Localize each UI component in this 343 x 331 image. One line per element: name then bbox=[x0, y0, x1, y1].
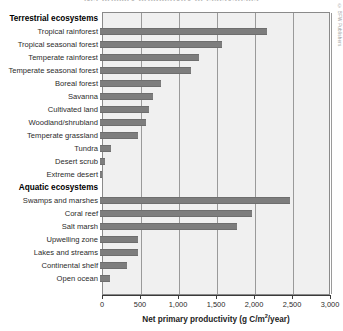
bar-row: Temperate seasonal forest bbox=[0, 64, 331, 77]
bar bbox=[100, 145, 111, 152]
bar-row-label: Coral reef bbox=[0, 207, 100, 220]
x-axis-title: Net primary productivity (g C/m2/year) bbox=[102, 313, 330, 324]
bar-row-label: Salt marsh bbox=[0, 220, 100, 233]
bar-track bbox=[100, 272, 331, 285]
bar bbox=[100, 236, 138, 243]
bar-track bbox=[100, 259, 331, 272]
bar-track bbox=[100, 155, 331, 168]
bar bbox=[100, 54, 199, 61]
bar-track bbox=[100, 233, 331, 246]
bar-row-label: Temperate rainforest bbox=[0, 51, 100, 64]
bar-row-label: Extreme desert bbox=[0, 168, 100, 181]
section-header-label: Aquatic ecosystems bbox=[0, 181, 100, 194]
bar-track bbox=[100, 38, 331, 51]
section-header-track bbox=[100, 12, 331, 25]
bar-row-label: Temperate seasonal forest bbox=[0, 64, 100, 77]
x-axis-tick bbox=[216, 295, 217, 299]
gridline bbox=[331, 13, 332, 294]
x-axis-tick-label: 500 bbox=[134, 300, 146, 309]
x-axis-tick-label: 2,000 bbox=[245, 300, 264, 309]
bar-row: Cultivated land bbox=[0, 103, 331, 116]
bar-row-label: Boreal forest bbox=[0, 77, 100, 90]
x-axis-tick bbox=[178, 295, 179, 299]
section-header-label: Terrestrial ecosystems bbox=[0, 12, 100, 25]
bar-row: Savanna bbox=[0, 90, 331, 103]
bar-row: Open ocean bbox=[0, 272, 331, 285]
x-axis-tick bbox=[140, 295, 141, 299]
bar-track bbox=[100, 194, 331, 207]
bar-row-label: Tundra bbox=[0, 142, 100, 155]
bar bbox=[100, 119, 146, 126]
bar-track bbox=[100, 129, 331, 142]
bar-rows: Terrestrial ecosystemsTropical rainfores… bbox=[0, 12, 331, 285]
bar bbox=[100, 158, 105, 165]
x-axis-tick bbox=[254, 295, 255, 299]
bar-row: Tropical rainforest bbox=[0, 25, 331, 38]
bar-row: Temperate rainforest bbox=[0, 51, 331, 64]
bar-row: Desert scrub bbox=[0, 155, 331, 168]
bar-track bbox=[100, 220, 331, 233]
bar bbox=[100, 93, 153, 100]
bar-track bbox=[100, 246, 331, 259]
bar-row-label: Lakes and streams bbox=[0, 246, 100, 259]
bar bbox=[100, 210, 252, 217]
bar bbox=[100, 223, 237, 230]
bar bbox=[100, 262, 127, 269]
chart-title: Net primary productivity of ecosystems bbox=[0, 0, 343, 1]
bar bbox=[100, 106, 149, 113]
x-axis-tick-label: 3,000 bbox=[321, 300, 340, 309]
bar bbox=[100, 132, 138, 139]
bar-row: Coral reef bbox=[0, 207, 331, 220]
bar bbox=[100, 249, 138, 256]
bar-track bbox=[100, 103, 331, 116]
chart-container: Net primary productivity of ecosystems T… bbox=[0, 0, 343, 331]
bar-track bbox=[100, 25, 331, 38]
bar-row-label: Swamps and marshes bbox=[0, 194, 100, 207]
bar bbox=[100, 28, 267, 35]
bar-row: Woodland/shrubland bbox=[0, 116, 331, 129]
bar-track bbox=[100, 142, 331, 155]
bar-row: Tropical seasonal forest bbox=[0, 38, 331, 51]
x-axis-tick bbox=[292, 295, 293, 299]
bar-row-label: Continental shelf bbox=[0, 259, 100, 272]
bar-row: Continental shelf bbox=[0, 259, 331, 272]
bar bbox=[100, 67, 191, 74]
x-axis-tick-label: 1,000 bbox=[169, 300, 188, 309]
bar-row-label: Tropical rainforest bbox=[0, 25, 100, 38]
bar-row-label: Woodland/shrubland bbox=[0, 116, 100, 129]
bar-row-label: Desert scrub bbox=[0, 155, 100, 168]
x-axis-tick bbox=[102, 295, 103, 299]
bar-track bbox=[100, 51, 331, 64]
bar bbox=[100, 197, 290, 204]
bar-row-label: Upwelling zone bbox=[0, 233, 100, 246]
x-axis-title-tail: /year) bbox=[268, 315, 290, 324]
bar bbox=[100, 80, 161, 87]
bar-row-label: Cultivated land bbox=[0, 103, 100, 116]
bar-row-label: Open ocean bbox=[0, 272, 100, 285]
bar-track bbox=[100, 207, 331, 220]
x-axis-tick-label: 0 bbox=[100, 300, 104, 309]
bar bbox=[100, 171, 102, 178]
bar-row-label: Temperate grassland bbox=[0, 129, 100, 142]
section-header-row: Aquatic ecosystems bbox=[0, 181, 331, 194]
bar-row: Extreme desert bbox=[0, 168, 331, 181]
bar-row: Temperate grassland bbox=[0, 129, 331, 142]
bar-row: Salt marsh bbox=[0, 220, 331, 233]
bar-track bbox=[100, 64, 331, 77]
x-axis-title-main: Net primary productivity (g C/m bbox=[142, 315, 264, 324]
x-axis-tick-label: 1,500 bbox=[207, 300, 226, 309]
bar-row-label: Tropical seasonal forest bbox=[0, 38, 100, 51]
bar-row-label: Savanna bbox=[0, 90, 100, 103]
section-header-track bbox=[100, 181, 331, 194]
x-axis-tick-label: 2,500 bbox=[283, 300, 302, 309]
bar bbox=[100, 275, 110, 282]
bar bbox=[100, 41, 222, 48]
section-header-row: Terrestrial ecosystems bbox=[0, 12, 331, 25]
bar-row: Upwelling zone bbox=[0, 233, 331, 246]
bar-track bbox=[100, 77, 331, 90]
bar-track bbox=[100, 116, 331, 129]
bar-track bbox=[100, 90, 331, 103]
bar-row: Lakes and streams bbox=[0, 246, 331, 259]
x-axis-tick bbox=[330, 295, 331, 299]
publisher-watermark: © BFW Publishers bbox=[337, 4, 342, 46]
